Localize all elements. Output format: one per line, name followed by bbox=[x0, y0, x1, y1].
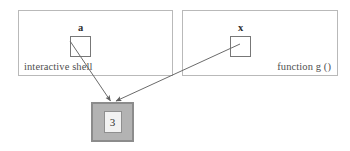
heap-value-label: 3 bbox=[110, 117, 116, 128]
frame-label-interactive-shell: interactive shell bbox=[24, 61, 92, 73]
variable-slot-x[interactable]: x bbox=[230, 36, 251, 57]
variable-slot-a[interactable]: a bbox=[70, 36, 91, 57]
frame-label-function-g: function g () bbox=[277, 61, 331, 73]
frame-function-g: x function g () bbox=[182, 10, 338, 76]
heap-object[interactable]: 3 bbox=[91, 102, 134, 142]
reference-diagram: a interactive shell x function g () 3 bbox=[0, 0, 350, 151]
variable-name-a: a bbox=[78, 22, 83, 34]
variable-name-x: x bbox=[238, 22, 243, 34]
frame-interactive-shell: a interactive shell bbox=[18, 10, 173, 76]
heap-value-box: 3 bbox=[104, 111, 122, 133]
